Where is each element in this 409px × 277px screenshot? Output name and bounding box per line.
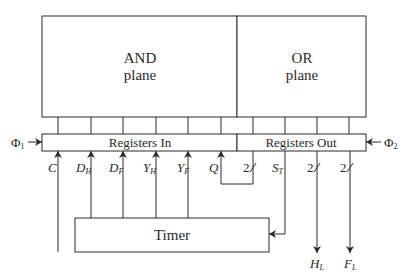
label-yh: YH xyxy=(143,160,157,176)
clock-phi2: Φ2 xyxy=(366,135,398,151)
plane-register-connectors xyxy=(58,117,349,134)
phi2-sub: 2 xyxy=(394,142,398,151)
registers-out-label: Registers Out xyxy=(265,135,337,150)
phi1-sub: 1 xyxy=(21,142,25,151)
label-hl: HL xyxy=(309,256,324,272)
svg-text:Φ2: Φ2 xyxy=(384,135,398,151)
and-plane-label-2: plane xyxy=(124,67,157,83)
label-df: DF xyxy=(108,160,123,176)
svg-text:Φ1: Φ1 xyxy=(11,135,25,151)
and-plane-label-1: AND xyxy=(124,50,157,66)
pla-block-diagram: AND plane OR plane Registers In Register… xyxy=(0,0,409,277)
label-st: ST xyxy=(272,160,284,176)
label-dh: DH xyxy=(75,160,92,176)
phi1-symbol: Φ xyxy=(11,135,21,150)
or-plane-label-1: OR xyxy=(292,50,313,66)
bus-width-fl: 2 xyxy=(340,160,347,175)
label-q: Q xyxy=(209,160,219,175)
or-plane-label-2: plane xyxy=(286,67,319,83)
bus-width-hl: 2 xyxy=(307,160,314,175)
clock-phi1: Φ1 xyxy=(11,135,42,151)
phi2-symbol: Φ xyxy=(384,135,394,150)
label-fl: FL xyxy=(343,256,357,272)
registers-in-label: Registers In xyxy=(109,135,172,150)
timer-label: Timer xyxy=(154,227,190,243)
label-yf: YF xyxy=(177,160,189,176)
bus-width-q: 2 xyxy=(243,160,250,175)
label-c: C xyxy=(48,160,57,175)
